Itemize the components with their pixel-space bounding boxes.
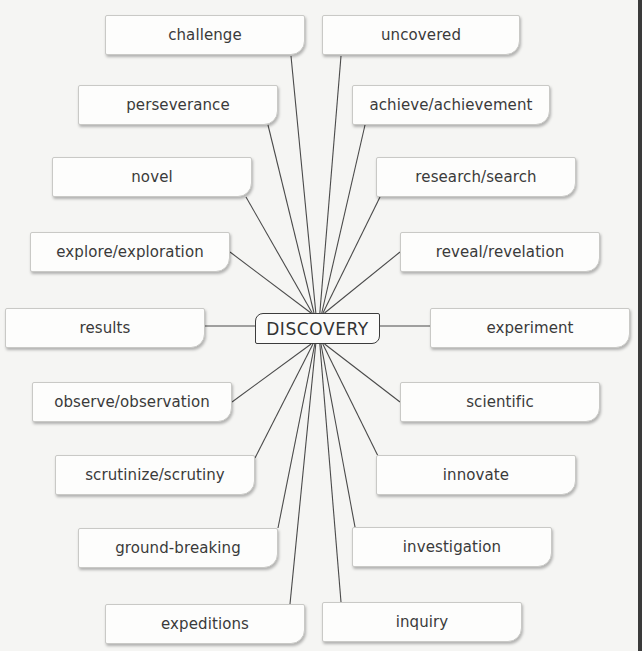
- node-label: achieve/achievement: [369, 96, 532, 114]
- node-label: reveal/revelation: [436, 243, 565, 261]
- node-label: explore/exploration: [56, 243, 204, 261]
- node-innovate[interactable]: innovate: [376, 455, 576, 495]
- node-label: investigation: [403, 538, 501, 556]
- connector-explore-exploration: [230, 252, 311, 313]
- connector-ground-breaking: [278, 344, 315, 528]
- connector-challenge: [291, 56, 316, 313]
- node-scientific[interactable]: scientific: [400, 382, 600, 422]
- node-label: research/search: [415, 168, 536, 186]
- connector-research-search: [323, 197, 380, 313]
- node-expeditions[interactable]: expeditions: [105, 604, 305, 644]
- node-achieve-achievement[interactable]: achieve/achievement: [352, 85, 550, 125]
- node-scrutinize-scrutiny[interactable]: scrutinize/scrutiny: [55, 455, 255, 495]
- node-label: uncovered: [381, 26, 461, 44]
- node-label: novel: [131, 168, 172, 186]
- connector-inquiry: [320, 344, 341, 602]
- node-observe-observation[interactable]: observe/observation: [32, 382, 232, 422]
- connector-expeditions: [290, 344, 316, 604]
- node-investigation[interactable]: investigation: [352, 527, 552, 567]
- node-label: inquiry: [396, 613, 449, 631]
- central-concept-discovery[interactable]: DISCOVERY: [255, 313, 380, 344]
- connector-scientific: [325, 344, 400, 402]
- node-label: observe/observation: [54, 393, 210, 411]
- connector-observe-observation: [232, 344, 311, 402]
- node-label: expeditions: [161, 615, 249, 633]
- connector-novel: [246, 197, 312, 313]
- node-label: experiment: [486, 319, 573, 337]
- node-label: challenge: [168, 26, 242, 44]
- node-challenge[interactable]: challenge: [105, 15, 305, 55]
- central-concept-label: DISCOVERY: [266, 319, 369, 339]
- connector-achieve-achievement: [322, 125, 365, 313]
- node-label: perseverance: [126, 96, 230, 114]
- connector-reveal-revelation: [325, 252, 400, 313]
- node-uncovered[interactable]: uncovered: [322, 15, 520, 55]
- node-results[interactable]: results: [5, 308, 205, 348]
- node-label: innovate: [443, 466, 509, 484]
- node-label: scrutinize/scrutiny: [85, 466, 225, 484]
- node-inquiry[interactable]: inquiry: [322, 602, 522, 642]
- node-ground-breaking[interactable]: ground-breaking: [78, 528, 278, 568]
- node-label: results: [80, 319, 131, 337]
- connector-scrutinize-scrutiny: [255, 344, 313, 458]
- node-perseverance[interactable]: perseverance: [78, 85, 278, 125]
- connector-investigation: [321, 344, 355, 527]
- node-explore-exploration[interactable]: explore/exploration: [30, 232, 230, 272]
- node-novel[interactable]: novel: [52, 157, 252, 197]
- node-label: ground-breaking: [115, 539, 241, 557]
- node-research-search[interactable]: research/search: [376, 157, 576, 197]
- node-label: scientific: [466, 393, 534, 411]
- node-reveal-revelation[interactable]: reveal/revelation: [400, 232, 600, 272]
- node-experiment[interactable]: experiment: [430, 308, 630, 348]
